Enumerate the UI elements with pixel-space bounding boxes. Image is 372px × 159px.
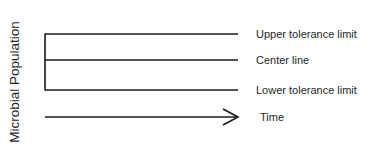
upper-tolerance-label: Upper tolerance limit	[256, 28, 357, 40]
control-chart-lines	[0, 0, 372, 159]
x-axis-label: Time	[260, 111, 284, 123]
lower-tolerance-label: Lower tolerance limit	[256, 84, 357, 96]
center-line-label: Center line	[256, 54, 309, 66]
time-arrow-icon	[45, 109, 238, 125]
